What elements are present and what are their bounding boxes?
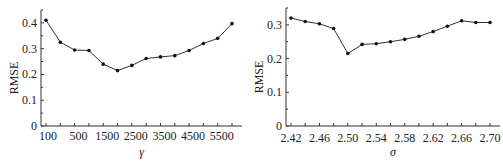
data-point — [87, 49, 91, 53]
chart-gamma-svg: 00.10.20.30.410050015002500350045005500γ… — [0, 0, 250, 166]
x-tick-label: 500 — [70, 129, 88, 143]
y-tick-label: 0.1 — [22, 93, 37, 107]
x-tick-label: 2500 — [124, 129, 148, 143]
x-axis-label: σ — [390, 145, 397, 159]
x-tick-label: 2.42 — [281, 131, 302, 145]
data-point — [116, 69, 120, 73]
data-point — [403, 38, 407, 42]
data-point — [159, 55, 163, 59]
x-tick-label: 2.58 — [394, 131, 415, 145]
data-point — [173, 54, 177, 58]
y-tick-label: 0.3 — [267, 18, 282, 32]
data-point — [332, 27, 336, 31]
data-point — [101, 62, 105, 66]
data-point — [44, 19, 48, 23]
chart-sigma: 00.10.20.32.422.462.502.542.582.622.662.… — [253, 0, 503, 166]
data-point — [202, 42, 206, 46]
chart-gamma: 00.10.20.30.410050015002500350045005500γ… — [0, 0, 250, 166]
data-point — [488, 21, 492, 25]
data-point — [446, 24, 450, 28]
data-point — [374, 42, 378, 46]
data-point — [230, 22, 234, 26]
x-tick-label: 2.62 — [423, 131, 444, 145]
y-tick-label: 0.3 — [22, 42, 37, 56]
y-tick-label: 0.1 — [267, 85, 282, 99]
x-tick-label: 2.50 — [337, 131, 358, 145]
data-point — [360, 43, 364, 47]
data-point — [73, 48, 77, 52]
y-tick-label: 0.2 — [22, 67, 37, 81]
y-tick-label: 0 — [31, 119, 37, 133]
x-axis-label: γ — [139, 145, 144, 159]
data-point — [417, 35, 421, 39]
data-point — [431, 30, 435, 34]
x-tick-label: 4500 — [181, 129, 205, 143]
x-tick-label: 2.46 — [309, 131, 330, 145]
data-point — [187, 49, 191, 53]
x-tick-label: 100 — [39, 129, 57, 143]
data-point — [130, 64, 134, 68]
data-point — [460, 19, 464, 23]
data-point — [289, 16, 293, 20]
data-point — [474, 21, 478, 25]
x-tick-label: 5500 — [210, 129, 234, 143]
x-tick-label: 2.66 — [451, 131, 472, 145]
data-point — [59, 40, 63, 44]
x-tick-label: 1500 — [95, 129, 119, 143]
y-axis-label: RMSE — [7, 62, 21, 95]
x-tick-label: 2.54 — [366, 131, 387, 145]
data-point — [346, 52, 350, 56]
data-point — [303, 20, 307, 24]
chart-sigma-svg: 00.10.20.32.422.462.502.542.582.622.662.… — [253, 0, 503, 166]
y-axis-label: RMSE — [253, 61, 266, 94]
x-tick-label: 2.70 — [480, 131, 501, 145]
y-tick-label: 0.2 — [267, 52, 282, 66]
y-tick-label: 0.4 — [22, 16, 37, 30]
data-point — [144, 57, 148, 61]
x-tick-label: 3500 — [152, 129, 176, 143]
data-point — [389, 40, 393, 44]
data-point — [318, 22, 322, 26]
data-line — [46, 20, 232, 70]
data-point — [216, 37, 220, 41]
